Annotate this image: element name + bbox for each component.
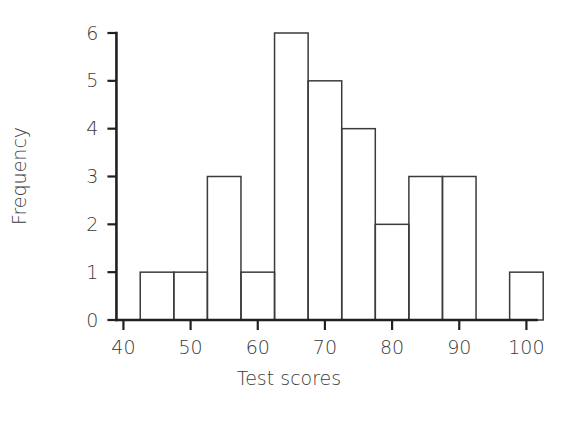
histogram-bar [207,177,241,321]
y-tick-label: 1 [86,261,98,283]
x-axis-title: Test scores [237,367,341,389]
x-tick-label: 80 [380,336,404,358]
histogram-bar [140,272,174,320]
bars-group [140,33,543,320]
x-tick-label: 50 [179,336,203,358]
histogram-bar [342,129,376,320]
y-tick-label: 5 [86,69,98,91]
histogram-bar [275,33,309,320]
histogram-bar [174,272,208,320]
x-tick-label: 100 [508,336,544,358]
x-axis-ticks: 405060708090100 [111,320,544,358]
chart-canvas: 0123456 405060708090100 Test scores Freq… [0,0,578,427]
y-tick-label: 0 [86,309,98,331]
histogram-bar [241,272,275,320]
y-tick-label: 2 [86,213,98,235]
x-tick-label: 60 [246,336,270,358]
histogram-bar [510,272,544,320]
y-axis-title: Frequency [8,127,30,225]
x-tick-label: 40 [111,336,135,358]
y-axis-ticks: 0123456 [86,22,116,331]
histogram-chart: 0123456 405060708090100 Test scores Freq… [0,0,578,427]
y-tick-label: 3 [86,165,98,187]
histogram-bar [308,81,342,320]
x-tick-label: 70 [313,336,337,358]
histogram-bar [442,177,476,321]
histogram-bar [375,224,409,320]
y-tick-label: 6 [86,22,98,44]
x-tick-label: 90 [447,336,471,358]
y-tick-label: 4 [86,117,98,139]
histogram-bar [409,177,443,321]
